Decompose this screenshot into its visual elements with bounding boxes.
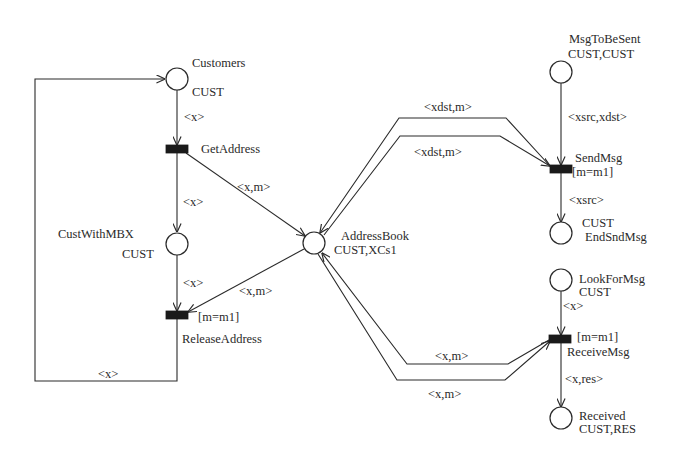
label-arc-addressbook-sendmsg-lower: <xdst,m> [414, 145, 462, 159]
transition-getaddress [166, 145, 188, 153]
label-arc-sendmsg-addressbook-upper: <xdst,m> [424, 100, 472, 114]
label-received-name: Received [579, 409, 626, 423]
place-lookformsg [550, 269, 572, 291]
place-custwithmbx [166, 233, 188, 255]
label-custwithmbx-colorset: CUST [122, 247, 154, 261]
label-arc-receivemsg-received: <x,res> [565, 372, 603, 386]
label-arc-lookformsg-receivemsg: <x> [563, 299, 583, 313]
label-arc-addressbook-releaseaddress: <x,m> [239, 284, 272, 298]
label-arc-addressbook-receivemsg-lower: <x,m> [428, 387, 461, 401]
label-lookformsg-colorset: CUST [579, 285, 611, 299]
label-customers-name: Customers [192, 56, 246, 70]
transition-receivemsg [549, 335, 571, 343]
label-received-colorset: CUST,RES [579, 422, 636, 436]
label-releaseaddress-guard: [m=m1] [198, 310, 239, 324]
transition-sendmsg [550, 165, 572, 173]
label-arc-getaddress-custwithmbx: <x> [183, 195, 203, 209]
arc-getaddress-addressbook [186, 153, 305, 236]
label-receivemsg: ReceiveMsg [567, 345, 630, 359]
label-lookformsg-name: LookForMsg [579, 272, 646, 286]
place-msgtobesent [550, 61, 572, 83]
label-addressbook-name: AddressBook [341, 229, 410, 243]
label-msgtobesent-colorset: CUST,CUST [568, 47, 634, 61]
label-sendmsg-guard: [m=m1] [572, 165, 613, 179]
label-endsndmsg-name: EndSndMsg [585, 230, 648, 244]
arc-addressbook-receivemsg-lower [318, 254, 550, 380]
place-addressbook [303, 232, 325, 254]
label-msgtobesent-name: MsgToBeSent [569, 32, 641, 46]
place-endsndmsg [550, 222, 572, 244]
arc-sendmsg-addressbook-upper [320, 118, 550, 233]
label-releaseaddress: ReleaseAddress [182, 332, 262, 346]
label-getaddress: GetAddress [201, 142, 260, 156]
label-addressbook-colorset: CUST,XCs1 [334, 243, 397, 257]
label-receivemsg-guard: [m=m1] [577, 330, 618, 344]
label-arc-customers-getaddress: <x> [184, 110, 204, 124]
label-custwithmbx-name: CustWithMBX [58, 227, 134, 241]
label-sendmsg: SendMsg [575, 151, 623, 165]
transition-releaseaddress [166, 311, 188, 319]
arc-addressbook-releaseaddress [188, 249, 304, 312]
label-endsndmsg-colorset: CUST [582, 216, 614, 230]
label-arc-getaddress-addressbook: <x,m> [237, 180, 270, 194]
arc-receivemsg-addressbook-upper [322, 253, 549, 364]
label-arc-sendmsg-endsndmsg: <xsrc> [569, 193, 604, 207]
label-arc-msgtobesent-sendmsg: <xsrc,xdst> [568, 110, 627, 124]
place-customers [166, 68, 188, 90]
label-arc-loop-back: <x> [98, 367, 118, 381]
label-arc-custwithmbx-releaseaddress: <x> [183, 276, 203, 290]
place-received [550, 407, 572, 429]
label-arc-receivemsg-addressbook-upper: <x,m> [435, 349, 468, 363]
petri-net-diagram: Customers CUST CustWithMBX CUST AddressB… [0, 0, 693, 451]
label-customers-colorset: CUST [192, 85, 224, 99]
